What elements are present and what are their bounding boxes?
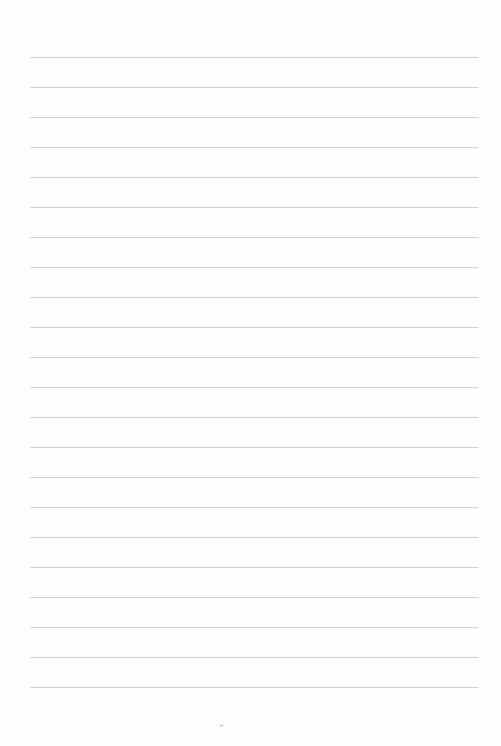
ruled-line: [30, 207, 478, 208]
ruled-line: [30, 297, 478, 298]
ruled-line: [30, 417, 478, 418]
ruled-line: [30, 687, 478, 688]
ruled-line: [30, 567, 478, 568]
lined-paper-page: [0, 0, 501, 746]
ruled-line: [30, 447, 478, 448]
ruled-line: [30, 357, 478, 358]
ruled-line: [30, 507, 478, 508]
ruled-line: [30, 117, 478, 118]
ruled-line: [30, 267, 478, 268]
ruled-line: [30, 597, 478, 598]
paper-speck: [220, 725, 223, 726]
ruled-line: [30, 177, 478, 178]
ruled-line: [30, 327, 478, 328]
ruled-line: [30, 147, 478, 148]
ruled-line: [30, 657, 478, 658]
ruled-line: [30, 537, 478, 538]
ruled-line: [30, 237, 478, 238]
ruled-line: [30, 477, 478, 478]
ruled-line: [30, 627, 478, 628]
ruled-line: [30, 387, 478, 388]
ruled-line: [30, 57, 478, 58]
ruled-line: [30, 87, 478, 88]
